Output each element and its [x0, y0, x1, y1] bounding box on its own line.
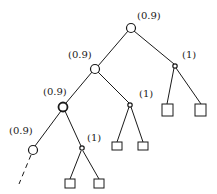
- leaf-square: [94, 179, 104, 188]
- edge-n3-left: [35, 111, 61, 146]
- edge-n4-leaf-right: [131, 107, 143, 142]
- label-level3-left: (0.9): [9, 125, 33, 136]
- leaf-square: [65, 179, 75, 188]
- edge-root-right: [134, 31, 174, 64]
- label-root: (0.9): [137, 10, 161, 21]
- node-level1-left: [91, 65, 100, 74]
- edge-n6-leaf-left: [70, 151, 81, 179]
- tree-leaves: [65, 104, 206, 188]
- edge-n2-leaf-right: [176, 68, 201, 104]
- leaf-square: [195, 104, 206, 116]
- node-level1-right: [173, 64, 177, 68]
- edge-n1-left: [66, 72, 92, 103]
- node-level3-left: [29, 146, 38, 155]
- edge-n1-right: [98, 72, 129, 103]
- label-level2-right: (1): [139, 88, 153, 99]
- label-level1-left: (0.9): [68, 49, 92, 60]
- label-level3-right: (1): [87, 132, 101, 143]
- edge-n4-leaf-left: [117, 107, 129, 142]
- continuation-dashed-edge: [19, 155, 31, 184]
- leaf-square: [162, 104, 173, 116]
- tree-diagram: (0.9) (0.9) (1) (0.9) (1) (0.9) (1): [0, 0, 217, 194]
- node-level2-left: [59, 103, 68, 112]
- edge-n2-leaf-left: [167, 68, 174, 104]
- label-level1-right: (1): [182, 49, 196, 60]
- edge-n3-right: [65, 111, 81, 146]
- leaf-square: [138, 142, 148, 150]
- label-level2-left: (0.9): [43, 86, 67, 97]
- edge-root-left: [98, 31, 128, 66]
- edge-n6-leaf-right: [83, 151, 99, 179]
- node-root: [127, 24, 136, 33]
- tree-edges: [19, 31, 201, 184]
- node-level3-right: [80, 146, 84, 150]
- node-level2-right: [128, 103, 132, 107]
- leaf-square: [112, 142, 122, 150]
